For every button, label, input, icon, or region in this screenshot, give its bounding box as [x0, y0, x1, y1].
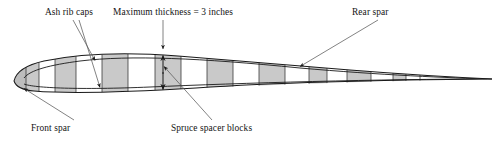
label-ash-rib-caps: Ash rib caps — [45, 7, 93, 18]
spacer-block — [207, 44, 233, 100]
label-spruce-spacer-blocks: Spruce spacer blocks — [171, 123, 252, 134]
spacer-block — [309, 46, 327, 100]
leader-front-spar — [24, 89, 74, 121]
airfoil-outline — [14, 54, 492, 92]
spacer-block — [155, 44, 181, 100]
leader-rear-spar — [300, 20, 378, 67]
leader-ash-rib-caps-upper — [73, 20, 95, 61]
wing-rib-diagram: Ash rib caps Maximum thickness = 3 inche… — [0, 0, 498, 151]
spacer-block — [393, 52, 406, 100]
lower-surface — [14, 79, 492, 92]
leader-spruce-spacer-blocks — [164, 67, 212, 121]
rib-interior — [8, 40, 492, 105]
leader-ash-rib-caps-lower — [79, 20, 100, 88]
spacer-block — [347, 48, 371, 100]
label-maximum-thickness: Maximum thickness = 3 inches — [113, 7, 233, 18]
spacer-block — [259, 44, 285, 100]
label-front-spar: Front spar — [31, 123, 70, 134]
label-rear-spar: Rear spar — [352, 7, 389, 18]
